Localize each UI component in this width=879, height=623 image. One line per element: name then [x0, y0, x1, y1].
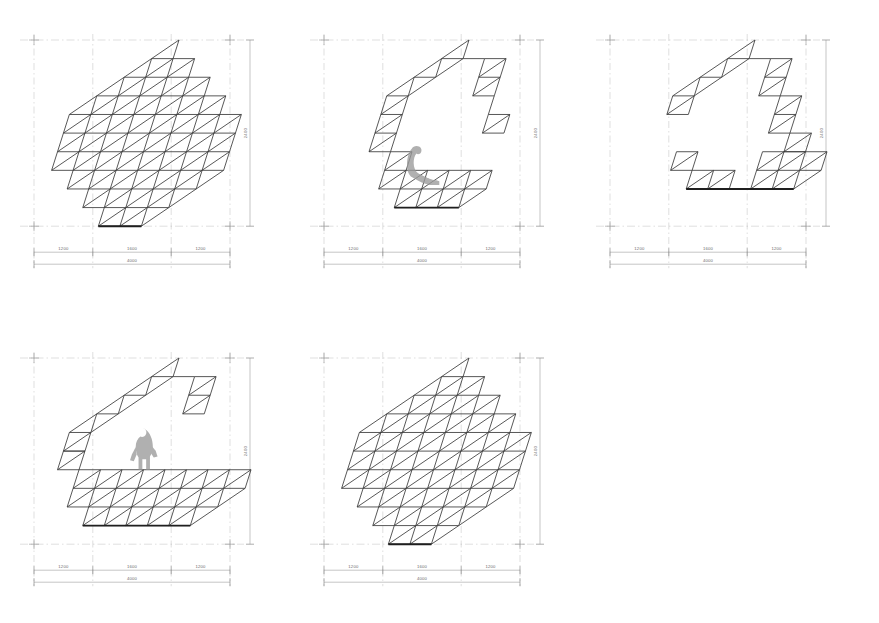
configuration-arch-platform-drawing: 12001600120040002400	[22, 352, 284, 623]
dimension-value-vertical: 2400	[244, 446, 249, 457]
registration-crosshair	[225, 35, 235, 45]
dimension-value-total: 4000	[417, 576, 428, 581]
lattice-members	[342, 358, 532, 544]
configuration-open-canopy: 12001600120040002400	[598, 34, 860, 306]
dimension-block: 12001600120040002400	[596, 34, 830, 268]
registration-crosshair	[515, 221, 525, 231]
registration-crosshair	[225, 539, 235, 549]
lattice-members	[58, 358, 252, 526]
registration-crosshair	[29, 539, 39, 549]
registration-crosshair	[319, 221, 329, 231]
registration-crosshair	[225, 353, 235, 363]
dimension-value-total: 4000	[127, 576, 138, 581]
dimension-value-segment: 1200	[58, 246, 69, 251]
dimension-value-total: 4000	[417, 258, 428, 263]
dimension-value-segment: 1200	[486, 246, 497, 251]
dimension-value-segment: 1200	[348, 246, 359, 251]
registration-crosshair	[801, 221, 811, 231]
registration-crosshair	[29, 35, 39, 45]
registration-crosshair	[319, 353, 329, 363]
dimension-block: 12001600120040002400	[20, 34, 254, 268]
human-figure-seated	[407, 146, 439, 185]
human-figure-standing	[130, 428, 158, 470]
configuration-flat-folded-drawing: 12001600120040002400	[22, 34, 284, 306]
dimension-value-vertical: 2400	[244, 128, 249, 139]
dimension-value-segment: 1600	[417, 246, 428, 251]
registration-crosshair	[605, 221, 615, 231]
dimension-value-total: 4000	[127, 258, 138, 263]
dimension-block: 12001600120040002400	[310, 34, 544, 268]
dimension-value-segment: 1600	[703, 246, 714, 251]
configuration-flat-deployed-drawing: 12001600120040002400	[312, 352, 574, 623]
registration-crosshair	[801, 35, 811, 45]
dimension-value-segment: 1600	[417, 564, 428, 569]
dimension-value-vertical: 2400	[820, 128, 825, 139]
dimension-value-segment: 1200	[196, 246, 207, 251]
dimension-value-segment: 1600	[127, 564, 138, 569]
dimension-value-segment: 1200	[348, 564, 359, 569]
dimension-block: 12001600120040002400	[310, 352, 544, 586]
dimension-value-segment: 1200	[772, 246, 783, 251]
configuration-arch-seat: 12001600120040002400	[312, 34, 574, 306]
registration-crosshair	[29, 353, 39, 363]
dimension-value-segment: 1200	[196, 564, 207, 569]
dimension-block: 12001600120040002400	[20, 352, 254, 586]
dimension-value-total: 4000	[703, 258, 714, 263]
structure-lattice	[58, 358, 252, 526]
structure-lattice	[52, 40, 242, 226]
registration-crosshair	[225, 221, 235, 231]
configuration-open-canopy-drawing: 12001600120040002400	[598, 34, 860, 306]
structure-lattice	[667, 40, 827, 189]
configuration-flat-folded: 12001600120040002400	[22, 34, 284, 306]
registration-crosshair	[605, 35, 615, 45]
drawing-sheet: 12001600120040002400	[0, 0, 879, 623]
configuration-flat-deployed: 12001600120040002400	[312, 352, 574, 623]
lattice-members	[52, 40, 242, 226]
dimension-value-vertical: 2400	[534, 446, 539, 457]
registration-crosshair	[319, 539, 329, 549]
registration-crosshair	[515, 353, 525, 363]
lattice-members	[369, 40, 510, 208]
registration-crosshair	[319, 35, 329, 45]
configuration-arch-seat-drawing: 12001600120040002400	[312, 34, 574, 306]
registration-crosshair	[29, 221, 39, 231]
registration-crosshair	[515, 539, 525, 549]
structure-lattice	[369, 40, 510, 208]
configuration-arch-platform: 12001600120040002400	[22, 352, 284, 623]
lattice-members	[667, 40, 827, 189]
dimension-value-segment: 1600	[127, 246, 138, 251]
dimension-value-segment: 1200	[58, 564, 69, 569]
dimension-value-segment: 1200	[634, 246, 645, 251]
dimension-value-vertical: 2400	[534, 128, 539, 139]
dimension-value-segment: 1200	[486, 564, 497, 569]
registration-crosshair	[515, 35, 525, 45]
structure-lattice	[342, 358, 532, 544]
